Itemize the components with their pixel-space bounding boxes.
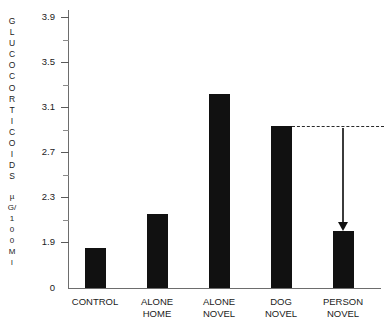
- y-axis-tick-label: 3.1: [29, 102, 55, 112]
- y-axis-unit-char: 0: [4, 224, 20, 235]
- y-axis-title-char: C: [4, 127, 20, 138]
- y-axis-unit-char: 1: [4, 213, 20, 224]
- y-axis-title-char: L: [4, 27, 20, 38]
- y-axis-zero-label: 0: [29, 283, 55, 293]
- y-axis-minor-tick: [63, 40, 69, 41]
- y-axis-minor-tick: [63, 175, 69, 176]
- y-axis-tick: [61, 242, 69, 243]
- y-axis-title: GLUCOCORTICOIDSµG/100Ml: [4, 16, 20, 268]
- annotation-arrow-shaft: [342, 128, 343, 224]
- x-axis-category-line: NOVEL: [298, 308, 388, 320]
- y-axis-line: [68, 10, 69, 289]
- glucocorticoids-bar-chart: GLUCOCORTICOIDSµG/100Ml 3.93.53.12.72.31…: [0, 0, 388, 336]
- y-axis-title-char: C: [4, 71, 20, 82]
- x-axis-line: [68, 288, 381, 289]
- y-axis-unit-char: l: [4, 257, 20, 268]
- y-axis-tick: [61, 107, 69, 108]
- y-axis-title-char: O: [4, 83, 20, 94]
- y-axis-title-char: S: [4, 171, 20, 182]
- y-axis-unit-char: M: [4, 246, 20, 257]
- y-axis-minor-tick: [63, 220, 69, 221]
- y-axis-tick: [61, 197, 69, 198]
- reference-dashed-line: [292, 126, 385, 127]
- x-axis-category-line: PERSON: [298, 296, 388, 308]
- y-axis-tick-label: 1.9: [29, 237, 55, 247]
- y-axis-unit-char: µ: [4, 191, 20, 202]
- y-axis-title-char: U: [4, 38, 20, 49]
- annotation-arrow-head: [338, 222, 348, 231]
- y-axis-title-char: D: [4, 160, 20, 171]
- y-axis-title-char: O: [4, 60, 20, 71]
- y-axis-tick-label: 2.3: [29, 192, 55, 202]
- y-axis-title-char: T: [4, 105, 20, 116]
- bar: [147, 214, 168, 288]
- y-axis-tick: [61, 62, 69, 63]
- y-axis-title-char: O: [4, 138, 20, 149]
- y-axis-minor-tick: [63, 85, 69, 86]
- y-axis-unit: µG/100Ml: [4, 191, 20, 268]
- y-axis-unit-char: G/: [4, 202, 20, 213]
- bar: [85, 248, 106, 288]
- y-axis-tick-label: 3.9: [29, 12, 55, 22]
- y-axis-minor-tick: [63, 130, 69, 131]
- y-axis-title-char: I: [4, 116, 20, 127]
- y-axis-title-char: G: [4, 16, 20, 27]
- bar: [271, 126, 292, 288]
- bar: [333, 231, 354, 288]
- y-axis-tick-label: 3.5: [29, 57, 55, 67]
- y-axis-tick: [61, 152, 69, 153]
- y-axis-tick: [61, 17, 69, 18]
- y-axis-title-char: R: [4, 94, 20, 105]
- y-axis-unit-char: 0: [4, 235, 20, 246]
- y-axis-title-char: C: [4, 49, 20, 60]
- y-axis-title-char: I: [4, 149, 20, 160]
- bar: [209, 94, 230, 289]
- y-axis-tick-label: 2.7: [29, 147, 55, 157]
- x-axis-category-label: PERSONNOVEL: [298, 296, 388, 319]
